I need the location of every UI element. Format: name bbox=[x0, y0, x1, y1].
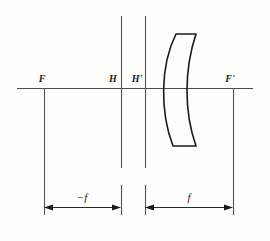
label-rear-focal-point: F' bbox=[224, 73, 235, 84]
arrowhead-front-right bbox=[112, 205, 121, 211]
arrowhead-front-left bbox=[44, 205, 53, 211]
dimension-label-front-focal-length: −f bbox=[77, 191, 89, 203]
dimension-label-rear-focal-length: f bbox=[187, 191, 192, 203]
label-rear-principal-plane: H' bbox=[131, 73, 143, 84]
optical-diagram: −f f F H H' F' bbox=[0, 0, 270, 241]
arrowhead-rear-left bbox=[145, 205, 154, 211]
dimension-rear-focal-length: f bbox=[145, 191, 233, 210]
label-front-principal-plane: H bbox=[108, 73, 118, 84]
label-front-focal-point: F bbox=[38, 73, 46, 84]
meniscus-lens-shape bbox=[164, 34, 196, 146]
dimension-front-focal-length: −f bbox=[44, 191, 121, 210]
arrowhead-rear-right bbox=[224, 205, 233, 211]
